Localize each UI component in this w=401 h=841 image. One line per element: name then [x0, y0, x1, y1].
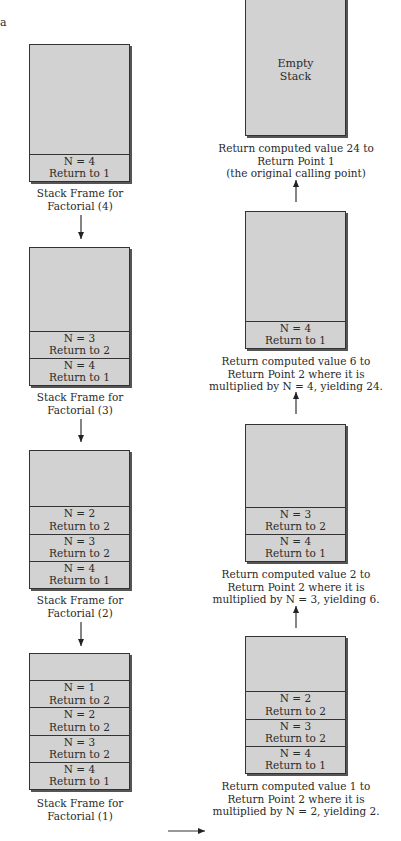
down-arrow-icon: [78, 419, 84, 442]
down-arrow-icon: [78, 215, 84, 239]
right-arrow-icon: [168, 828, 205, 834]
up-arrow-icon: [293, 392, 299, 414]
up-arrow-icon: [293, 180, 299, 202]
flow-arrows: [0, 0, 401, 841]
up-arrow-icon: [293, 606, 299, 628]
down-arrow-icon: [78, 622, 84, 646]
